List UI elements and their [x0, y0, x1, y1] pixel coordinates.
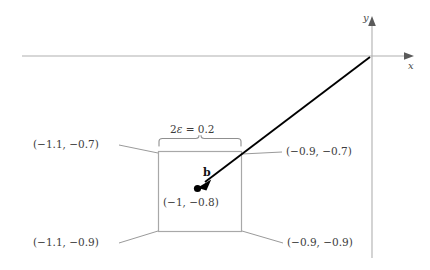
leader-bottom-left: [119, 231, 158, 243]
brace-label-prefix: 2: [170, 123, 177, 135]
corner-label-bottom-right: (−0.9, −0.9): [287, 237, 353, 248]
diagram-canvas: [0, 0, 430, 270]
vector-arrow: [194, 57, 370, 192]
leader-top-right: [242, 152, 282, 154]
point-b-marker: [194, 185, 201, 192]
brace-label: 2ε = 0.2: [170, 124, 215, 135]
leader-top-left: [119, 145, 158, 153]
y-axis-label: y: [363, 13, 369, 23]
epsilon-ball-diagram: y x 2ε = 0.2 (−1.1, −0.7) (−0.9, −0.7) (…: [0, 0, 430, 270]
x-axis: [22, 52, 414, 60]
y-axis-arrowhead: [368, 16, 376, 26]
corner-label-top-right: (−0.9, −0.7): [286, 146, 352, 157]
x-axis-arrowhead: [404, 52, 414, 60]
brace-label-suffix: = 0.2: [182, 123, 214, 135]
x-axis-label: x: [408, 61, 414, 71]
y-axis: [368, 16, 376, 258]
corner-label-top-left: (−1.1, −0.7): [33, 139, 99, 150]
point-coordinate-label: (−1, −0.8): [163, 197, 219, 208]
width-brace: [159, 136, 241, 147]
corner-label-bottom-left: (−1.1, −0.9): [33, 237, 99, 248]
vector-label-b: b: [203, 167, 211, 178]
leader-lines: [119, 145, 283, 243]
leader-bottom-right: [242, 231, 283, 243]
